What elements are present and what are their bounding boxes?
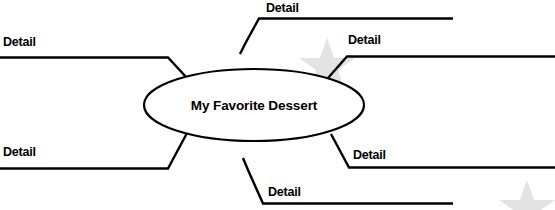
star-lower-watermark xyxy=(499,180,555,210)
detail-label-top-left: Detail xyxy=(3,36,36,49)
spoke-line-top-center xyxy=(240,19,453,55)
detail-label-bottom-right: Detail xyxy=(353,149,386,162)
detail-label-bottom-center: Detail xyxy=(268,186,301,199)
spoke-line-top-right xyxy=(328,57,555,79)
detail-label-top-center: Detail xyxy=(266,2,299,15)
spoke-line-top-left xyxy=(0,58,187,79)
detail-label-top-right: Detail xyxy=(348,34,381,47)
diagram-canvas: My Favorite Dessert Detail Detail Detail… xyxy=(0,0,555,210)
center-label: My Favorite Dessert xyxy=(191,98,318,113)
detail-label-bottom-left: Detail xyxy=(3,146,36,159)
web-diagram: My Favorite Dessert xyxy=(0,0,555,210)
